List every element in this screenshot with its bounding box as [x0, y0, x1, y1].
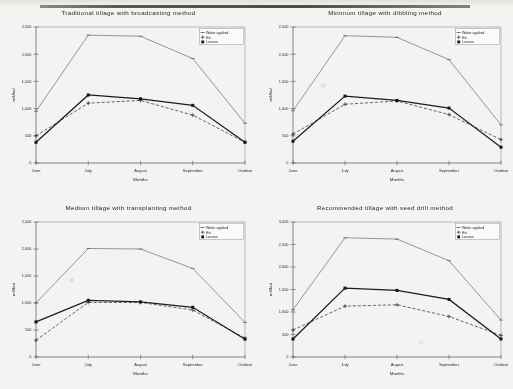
y-tick-label: 3,000 [279, 219, 290, 224]
y-axis-title: m3/fed [268, 282, 273, 296]
x-tick-label: June [289, 168, 299, 173]
series-line-losses [293, 96, 501, 147]
y-tick-label: 2,500 [22, 24, 33, 29]
legend-label: Etc [462, 36, 467, 40]
legend-label: Etc [206, 36, 211, 40]
series-line-water-applied [293, 36, 501, 125]
x-tick-label: October [238, 362, 253, 367]
legend-label: Etc [462, 231, 467, 235]
legend-label: Etc [206, 231, 211, 235]
y-tick-label: 0 [29, 160, 32, 165]
x-tick-label: October [494, 168, 509, 173]
y-tick-label: 0 [286, 160, 289, 165]
y-tick-label: 2,500 [22, 219, 33, 224]
y-axis-title: m3/fed [11, 88, 16, 102]
y-tick-label: 500 [282, 133, 289, 138]
x-tick-label: August [134, 362, 148, 367]
x-tick-label: October [238, 168, 253, 173]
x-tick-label: September [439, 362, 460, 367]
legend-label: Losses [462, 235, 474, 239]
x-tick-label: August [391, 362, 405, 367]
series-line-etc [293, 101, 501, 140]
y-tick-label: 1,500 [279, 287, 290, 292]
chart-panel-4: Recommended tillage with seed drill meth… [257, 195, 513, 389]
chart-grid: Traditional tillage with broadcasting me… [0, 0, 513, 389]
y-tick-label: 0 [29, 354, 32, 359]
x-tick-label: August [134, 168, 148, 173]
y-tick-label: 2,000 [279, 264, 290, 269]
x-tick-label: July [341, 168, 349, 173]
y-tick-label: 1,000 [22, 106, 33, 111]
y-tick-label: 2,000 [279, 52, 290, 57]
x-tick-label: September [183, 362, 204, 367]
plot-area-3: 05001,0001,5002,0002,500JuneJulyAugustSe… [0, 195, 257, 389]
y-tick-label: 1,500 [22, 79, 33, 84]
y-tick-label: 2,500 [279, 242, 290, 247]
series-line-etc [36, 100, 245, 142]
x-tick-label: June [289, 362, 299, 367]
series-line-losses [36, 300, 245, 339]
chart-panel-1: Traditional tillage with broadcasting me… [0, 0, 257, 195]
y-tick-label: 0 [286, 354, 289, 359]
y-tick-label: 1,000 [279, 106, 290, 111]
x-tick-label: October [494, 362, 509, 367]
series-line-water-applied [36, 35, 245, 123]
plot-area-2: 05001,0001,5002,0002,500JuneJulyAugustSe… [257, 0, 513, 195]
x-tick-label: June [32, 168, 42, 173]
x-tick-label: September [439, 168, 460, 173]
y-tick-label: 1,500 [279, 79, 290, 84]
x-axis-title: Months [133, 177, 148, 182]
legend-label: Losses [462, 40, 474, 44]
plot-area-1: 05001,0001,5002,0002,500JuneJulyAugustSe… [0, 0, 257, 195]
chart-panel-3: Medium tillage with transplanting method… [0, 195, 257, 389]
legend-label: Water applied [206, 31, 228, 35]
x-tick-label: September [183, 168, 204, 173]
y-axis-title: m3/fed [11, 282, 16, 296]
y-axis-title: m3/fed [268, 88, 273, 102]
legend-label: Water applied [206, 226, 228, 230]
x-tick-label: June [32, 362, 42, 367]
y-tick-label: 2,500 [279, 24, 290, 29]
y-tick-label: 2,000 [22, 52, 33, 57]
y-tick-label: 2,000 [22, 246, 33, 251]
y-tick-label: 1,500 [22, 273, 33, 278]
series-line-etc [36, 302, 245, 340]
y-tick-label: 500 [25, 327, 32, 332]
y-tick-label: 1,000 [22, 300, 33, 305]
x-tick-label: July [341, 362, 349, 367]
series-line-etc [293, 305, 501, 336]
x-tick-label: July [85, 362, 93, 367]
chart-panel-2: Minimum tillage with dibbling method 050… [257, 0, 513, 195]
x-axis-title: Months [390, 177, 405, 182]
y-tick-label: 500 [282, 332, 289, 337]
y-tick-label: 1,000 [279, 309, 290, 314]
y-tick-label: 500 [25, 133, 32, 138]
legend-label: Losses [206, 40, 218, 44]
x-axis-title: Months [390, 371, 405, 376]
series-line-losses [293, 288, 501, 339]
series-line-water-applied [36, 248, 245, 322]
x-axis-title: Months [133, 371, 148, 376]
legend-label: Water applied [462, 31, 484, 35]
x-tick-label: July [85, 168, 93, 173]
legend-label: Losses [206, 235, 218, 239]
plot-area-4: 05001,0001,5002,0002,5003,000JuneJulyAug… [257, 195, 513, 389]
legend-label: Water applied [462, 226, 484, 230]
x-tick-label: August [391, 168, 405, 173]
